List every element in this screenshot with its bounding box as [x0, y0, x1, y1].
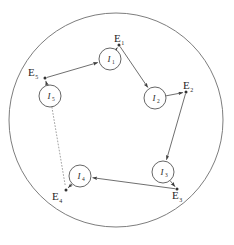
edge-e5-to-i1 [47, 63, 97, 78]
event-point-e5 [44, 77, 47, 80]
process-node-subscript-i3: 3 [165, 172, 168, 178]
event-label-e5: E [28, 66, 35, 78]
edge-e2-to-i3 [167, 94, 186, 159]
edge-i5-to-e5 [46, 81, 47, 85]
event-subscript-e4: 4 [59, 198, 62, 204]
process-node-subscript-i1: 1 [112, 59, 115, 65]
node-layer [39, 48, 174, 187]
process-node-subscript-i5: 5 [52, 96, 55, 102]
event-label-e1: E [114, 32, 121, 44]
event-label-e3: E [172, 189, 179, 201]
figure-canvas: I1I2I3I4I5E1E2E3E4E5 [0, 0, 234, 245]
edge-i1-to-e1 [116, 48, 117, 49]
enclosing-circle [9, 13, 223, 227]
boundary-layer [9, 13, 223, 227]
ring-diagram: I1I2I3I4I5E1E2E3E4E5 [0, 0, 234, 245]
event-subscript-e3: 3 [179, 197, 182, 203]
process-node-subscript-i2: 2 [157, 98, 160, 104]
event-point-e4 [65, 189, 68, 192]
edge-i4-to-e4 [68, 184, 71, 187]
edge-i5-to-e4 [52, 107, 65, 186]
event-subscript-e1: 1 [121, 40, 124, 46]
edge-i2-to-e2 [166, 93, 182, 96]
event-label-e4: E [52, 190, 59, 202]
event-subscript-e5: 5 [35, 74, 38, 80]
event-subscript-e2: 2 [190, 87, 193, 93]
event-label-e2: E [183, 79, 190, 91]
edge-e1-to-i2 [120, 47, 147, 87]
edge-i3-to-e3 [170, 181, 175, 186]
process-node-subscript-i4: 4 [82, 176, 85, 182]
